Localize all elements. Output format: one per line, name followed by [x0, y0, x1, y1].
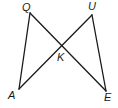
- geometry-diagram: Q U K A E: [0, 0, 118, 108]
- label-E: E: [104, 91, 112, 103]
- label-Q: Q: [22, 1, 31, 13]
- segment-QE: [30, 13, 106, 91]
- label-A: A: [7, 89, 15, 101]
- label-K: K: [57, 51, 65, 63]
- label-U: U: [88, 0, 96, 12]
- segment-UA: [19, 15, 92, 89]
- segment-QA: [19, 13, 30, 89]
